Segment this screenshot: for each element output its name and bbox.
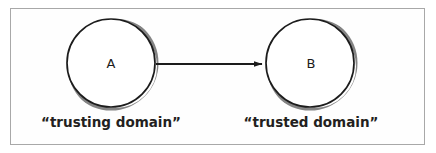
- node-b-caption: “trusted domain”: [231, 116, 391, 130]
- figure-root: A B “trusting domain” “trusted domain”: [0, 0, 436, 153]
- node-b-label: B: [281, 57, 341, 70]
- diagram-canvas: [0, 0, 436, 153]
- node-a-label: A: [81, 57, 141, 70]
- node-a-caption: “trusting domain”: [31, 116, 191, 130]
